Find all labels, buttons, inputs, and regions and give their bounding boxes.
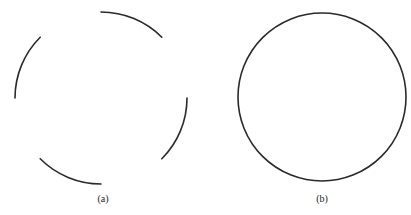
panel-b-full-circle [238,13,406,181]
figure-canvas [0,0,411,215]
arc-bottom-left [40,159,101,184]
arc-top-right [101,12,162,37]
arc-left-top [15,37,40,98]
panel-a-broken-circle [15,12,187,184]
panel-b-label: (b) [302,193,342,204]
panel-a-label: (a) [83,193,123,204]
arc-right-bottom [162,98,187,159]
closed-circle [238,13,406,181]
